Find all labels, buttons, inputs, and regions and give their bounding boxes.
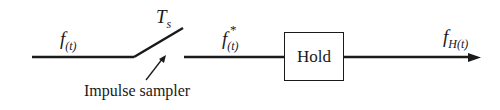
hold-block: Hold	[284, 32, 344, 81]
output-signal-label: fH(t)	[443, 26, 468, 48]
sample-period-label: Ts	[156, 6, 171, 28]
output-arrow-icon	[468, 53, 481, 62]
sampled-signal-label: f*(t)	[222, 28, 239, 50]
sampled-signal-star: *	[230, 22, 237, 38]
sampler-caption: Impulse sampler	[84, 82, 190, 100]
input-signal-label: f(t)	[60, 28, 77, 50]
input-signal-sub: (t)	[65, 39, 76, 53]
sample-period-sub: s	[167, 17, 172, 31]
output-signal-sub: H(t)	[448, 37, 468, 51]
sample-period-base: T	[156, 6, 167, 27]
sampled-signal-sub: (t)	[227, 39, 238, 53]
hold-block-label: Hold	[297, 47, 331, 67]
sampler-switch	[134, 28, 183, 57]
block-diagram-lines	[0, 0, 500, 110]
pointer-arrow-shaft	[146, 58, 163, 80]
